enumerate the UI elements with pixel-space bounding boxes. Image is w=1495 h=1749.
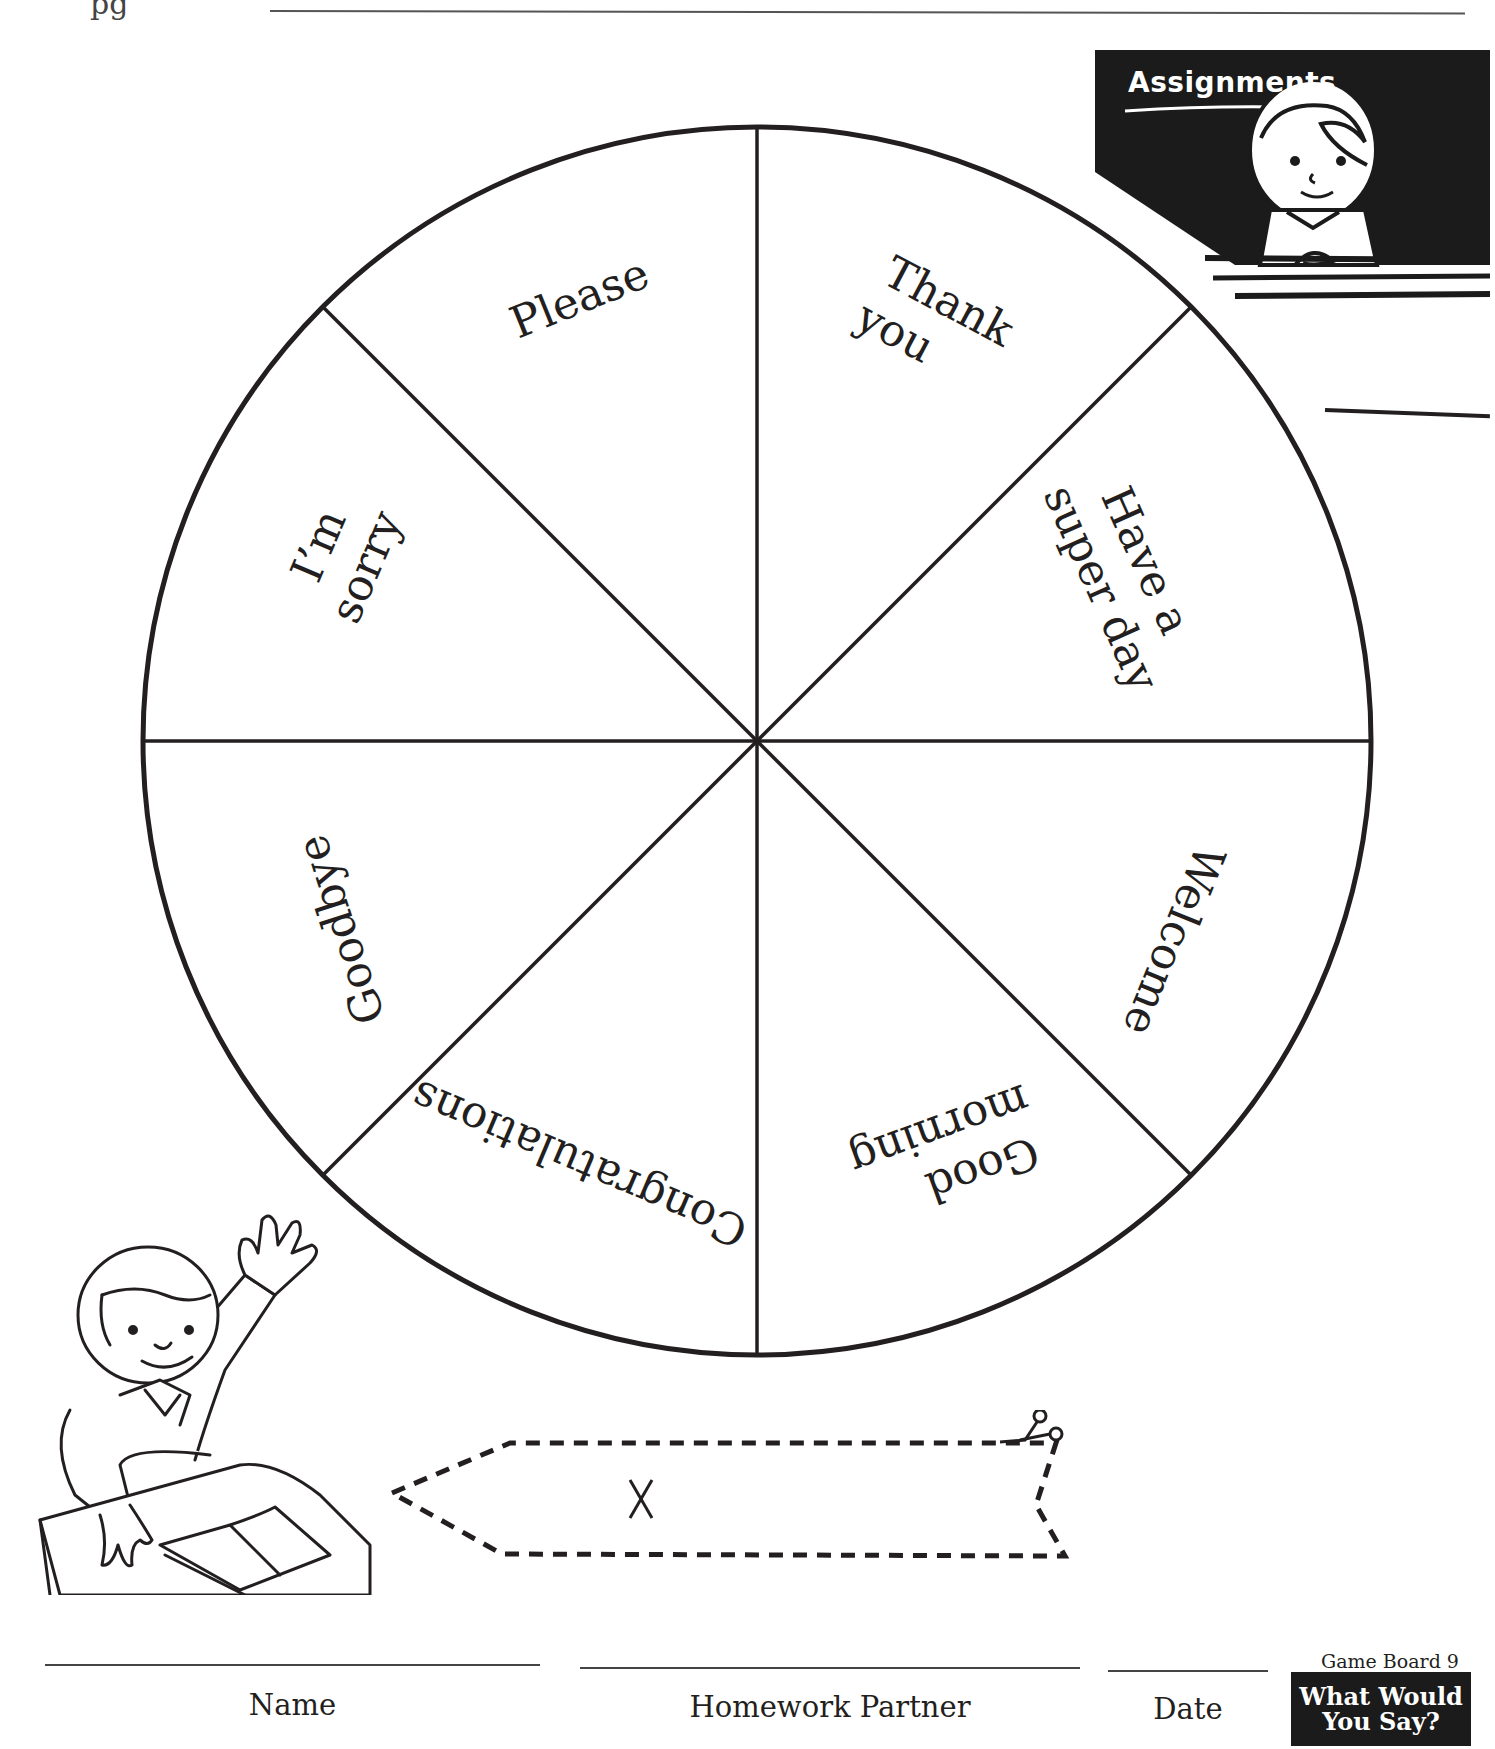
title-badge: What Would You Say?: [1291, 1672, 1471, 1746]
segment-label-line: Goodbye: [286, 829, 395, 1031]
date-line[interactable]: [1108, 1670, 1268, 1672]
name-label: Name: [45, 1688, 540, 1722]
svg-text:Congratulations: Congratulations: [404, 1071, 755, 1258]
svg-text:Thank you: Thank you: [848, 244, 1035, 409]
segment-label-line: Welcome: [1113, 838, 1235, 1043]
name-line[interactable]: [45, 1664, 540, 1666]
svg-text:Welcome: Welcome: [1113, 838, 1235, 1043]
svg-text:Please: Please: [503, 247, 656, 348]
svg-text:Goodbye: Goodbye: [286, 829, 395, 1031]
homework-partner-line[interactable]: [580, 1667, 1080, 1669]
svg-text:I’m sorry: I’m sorry: [271, 483, 411, 630]
date-label: Date: [1108, 1692, 1268, 1726]
pivot-x-mark: [630, 1480, 652, 1518]
scissors-icon: [1000, 1410, 1062, 1442]
wheel-segment-thank-you[interactable]: Thank you: [848, 244, 1035, 409]
wheel-segment-im-sorry[interactable]: I’m sorry: [271, 483, 411, 630]
wheel-segment-goodbye[interactable]: Goodbye: [286, 829, 395, 1031]
segment-dividers: [143, 127, 1371, 1355]
boy-raising-hand-icon: [30, 1195, 390, 1595]
svg-text:Have a super day: Have a super day: [1034, 456, 1217, 698]
pointer-cutout[interactable]: [380, 1410, 1080, 1610]
svg-text:Good morning: Good morning: [842, 1075, 1054, 1236]
segment-label-line: Congratulations: [404, 1071, 755, 1258]
game-board-caption: Game Board 9: [1290, 1650, 1490, 1672]
wheel-segment-please[interactable]: Please: [503, 247, 656, 348]
wheel-segment-good-morning[interactable]: Good morning: [842, 1075, 1054, 1236]
segment-label-line: Please: [503, 247, 656, 348]
badge-line-1: What Would: [1299, 1684, 1463, 1709]
dashed-cut-line: [392, 1443, 1065, 1556]
badge-line-2: You Say?: [1322, 1709, 1440, 1734]
wheel-segment-congratulations[interactable]: Congratulations: [404, 1071, 755, 1258]
wheel-segment-have-a-super-day[interactable]: Have a super day: [1034, 456, 1217, 698]
wheel-segment-welcome[interactable]: Welcome: [1113, 838, 1235, 1043]
homework-partner-label: Homework Partner: [580, 1690, 1080, 1724]
